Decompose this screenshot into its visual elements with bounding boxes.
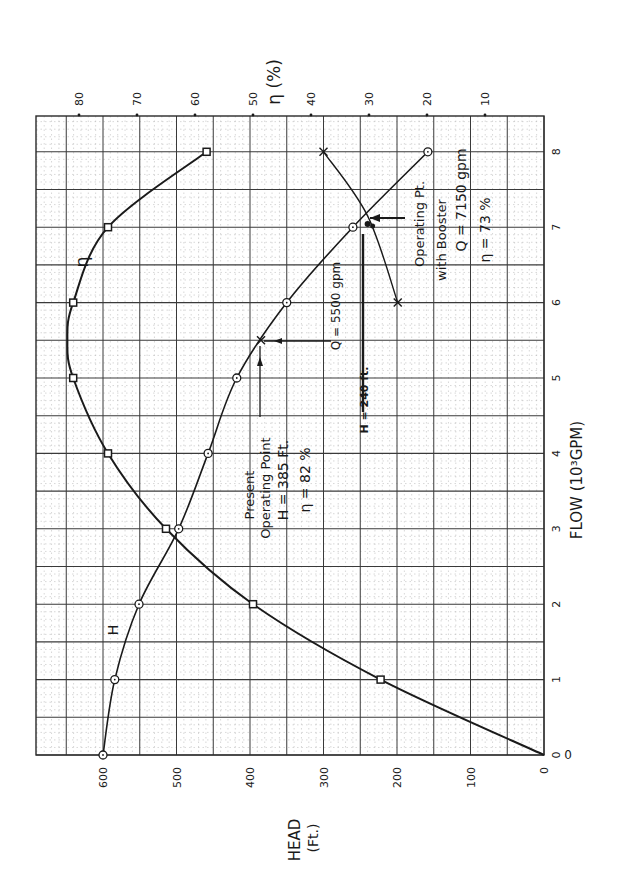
head-tick-label: 600 — [97, 767, 110, 788]
present-head-label: H = 385 Ft. — [275, 440, 291, 520]
efficiency-tick-label: 80 — [73, 92, 86, 106]
head-tick-label: 0 — [538, 767, 551, 774]
efficiency-point-marker — [250, 601, 257, 608]
efficiency-point-marker — [163, 525, 170, 532]
present-label-2: Operating Point — [258, 437, 273, 538]
flow-tick-label: 6 — [550, 299, 563, 306]
head-curve-label: H — [105, 625, 121, 636]
flow-tick-label: 8 — [550, 148, 563, 155]
efficiency-axis-title: η (%) — [264, 59, 284, 105]
efficiency-tick-label: 10 — [479, 92, 492, 106]
flow-tick-label: 1 — [550, 676, 563, 683]
head-tick-label: 300 — [318, 767, 331, 788]
arrowhead-icon — [257, 357, 263, 366]
booster-label-2: with Booster — [434, 198, 449, 280]
efficiency-curve-label: η — [71, 256, 92, 267]
efficiency-point-marker — [70, 375, 77, 382]
arrowhead-icon — [274, 338, 282, 344]
efficiency-point-marker — [105, 224, 112, 231]
flow-tick-label: 4 — [550, 450, 563, 457]
booster-flow-label: Q = 7150 gpm — [453, 148, 469, 251]
efficiency-tick-label: 50 — [247, 92, 260, 106]
flow-tick-label: 0 — [550, 752, 563, 759]
flow-tick-label: 7 — [550, 224, 563, 231]
efficiency-tick-label: 60 — [189, 92, 202, 106]
flow-tick-label: 3 — [550, 525, 563, 532]
flow-tick-label: 5 — [550, 375, 563, 382]
origin-zero-label: 0 — [564, 748, 572, 762]
pump-curve-chart: 8070605040302010 6005004003002001000 012… — [0, 0, 618, 880]
head-tick-label: 500 — [171, 767, 184, 788]
head-tick-label: 400 — [244, 767, 257, 788]
booster-point-marker — [365, 221, 371, 227]
efficiency-tick-label: 40 — [305, 92, 318, 106]
booster-label-1: Operating Pt. — [412, 181, 427, 267]
head-axis-title: HEAD — [286, 819, 304, 862]
efficiency-tick-label: 30 — [363, 92, 376, 106]
flow-tick-label: 2 — [550, 601, 563, 608]
q5500-label: Q = 5500 gpm — [329, 262, 343, 350]
flow-axis-ticks: 012345678 — [550, 148, 563, 758]
head-tick-label: 100 — [465, 767, 478, 788]
efficiency-point-marker — [105, 450, 112, 457]
h240-label: H = 240 ft. — [358, 366, 371, 433]
efficiency-tick-label: 20 — [421, 92, 434, 106]
present-eff-label: η = 82 % — [297, 447, 313, 512]
flow-axis-title: FLOW (10³GPM) — [568, 421, 586, 539]
head-tick-label: 200 — [391, 767, 404, 788]
head-axis-unit: (Ft.) — [305, 824, 321, 853]
head-axis-ticks: 6005004003002001000 — [97, 767, 551, 788]
efficiency-point-marker — [377, 676, 384, 683]
efficiency-point-marker — [70, 299, 77, 306]
booster-eff-label: η = 73 % — [477, 197, 493, 262]
present-label-1: Present — [242, 471, 257, 520]
efficiency-point-marker — [203, 148, 210, 155]
efficiency-tick-label: 70 — [131, 92, 144, 106]
